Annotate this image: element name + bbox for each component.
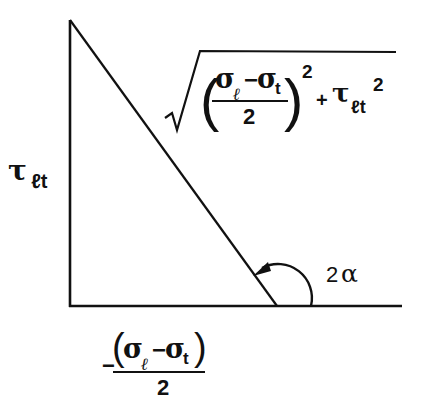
diagram-canvas: ( ) σ ℓ − σ t 2 2 + τ ℓt 2 τ ℓt [0,0,423,415]
plus-sign: + [316,89,328,111]
denominator: 2 [243,104,255,129]
triangle-diagram: ( ) σ ℓ − σ t 2 2 + τ ℓt 2 τ ℓt [0,0,423,415]
hypotenuse-line [70,20,277,306]
tau-vertical-sub: ℓt [31,170,48,192]
horizontal-side-label: − ( σ ℓ − σ t ) 2 [102,326,207,400]
h-sigma-l: σ [123,333,143,364]
alpha-symbol: α [341,259,358,288]
hypotenuse-label: ( ) σ ℓ − σ t 2 2 + τ ℓt 2 [200,61,384,132]
close-paren: ) [284,67,303,132]
sigma-t-sub: t [275,79,281,98]
h-sigma-t: σ [165,333,185,364]
angle-arrowhead-icon [253,262,271,276]
h-minus: − [152,336,166,363]
angle-label: 2 α [326,259,358,288]
h-denominator: 2 [157,375,169,400]
exponent: 2 [302,61,313,82]
tau-sub: ℓt [351,97,366,117]
tau-vertical: τ [8,154,27,187]
h-sigma-t-sub: t [183,349,189,368]
tau: τ [332,78,350,108]
minus-sign: − [244,66,258,93]
angle-coefficient: 2 [326,262,338,287]
tau-exp: 2 [373,74,384,95]
sigma-l: σ [215,63,235,94]
h-close-paren: ) [194,326,207,368]
vertical-side-label: τ ℓt [8,154,48,192]
sigma-t: σ [257,63,277,94]
